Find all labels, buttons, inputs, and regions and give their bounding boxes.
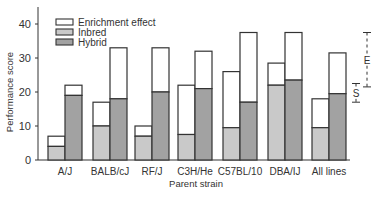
hybrid-segment — [152, 92, 169, 160]
x-category-label: BALB/cJ — [91, 166, 129, 177]
x-category-label: RF/J — [141, 166, 162, 177]
enrichment-segment — [285, 33, 302, 81]
y-axis-title: Performance score — [4, 52, 15, 132]
inbred-segment — [223, 128, 240, 160]
x-category-label: DBA/IJ — [269, 166, 300, 177]
enrichment-segment — [152, 48, 169, 92]
legend-swatch — [56, 29, 73, 35]
bar-group-dba-ij — [268, 33, 302, 161]
enrichment-segment — [65, 85, 82, 95]
enrichment-segment — [312, 99, 329, 128]
hybrid-segment — [65, 95, 82, 160]
enrichment-segment — [268, 63, 285, 85]
enrichment-segment — [178, 85, 195, 134]
bar-group-rf-j — [135, 48, 169, 160]
inbred-segment — [178, 135, 195, 161]
inbred-segment — [268, 85, 285, 160]
legend-swatch — [56, 19, 73, 25]
inbred-segment — [135, 136, 152, 160]
legend: Enrichment effectInbredHybrid — [56, 17, 156, 48]
enrichment-segment — [110, 48, 127, 99]
hybrid-segment — [240, 102, 257, 160]
bar-chart: 010203040 A/JBALB/cJRF/JC3H/HeC57BL/10DB… — [0, 0, 387, 197]
hybrid-segment — [285, 80, 302, 160]
y-tick-label: 40 — [19, 18, 31, 30]
inbred-segment — [93, 126, 110, 160]
x-axis-title: Parent strain — [169, 178, 223, 189]
bar-group-balb-cj — [93, 48, 127, 160]
x-category-label: C3H/He — [177, 166, 213, 177]
enrichment-segment — [329, 53, 346, 94]
bar-group-all-lines — [312, 53, 346, 160]
error-bars: ES — [352, 33, 371, 103]
error-bar-label: E — [364, 55, 371, 66]
enrichment-segment — [48, 136, 65, 146]
inbred-segment — [312, 128, 329, 160]
error-bar-e: E — [363, 33, 371, 87]
x-category-label: All lines — [312, 166, 346, 177]
hybrid-segment — [329, 94, 346, 160]
enrichment-segment — [223, 72, 240, 128]
enrichment-segment — [135, 126, 152, 136]
y-tick-label: 0 — [25, 154, 31, 166]
hybrid-segment — [195, 89, 212, 160]
legend-label: Hybrid — [78, 37, 107, 48]
bar-group-c57bl-10 — [223, 33, 257, 161]
legend-swatch — [56, 39, 73, 45]
inbred-segment — [48, 146, 65, 160]
bars — [48, 33, 346, 161]
bar-group-c3h-he — [178, 51, 212, 160]
enrichment-segment — [240, 33, 257, 103]
enrichment-segment — [93, 102, 110, 126]
x-category-label: C57BL/10 — [218, 166, 263, 177]
y-tick-label: 10 — [19, 120, 31, 132]
x-axis-labels: A/JBALB/cJRF/JC3H/HeC57BL/10DBA/IJAll li… — [58, 166, 346, 177]
hybrid-segment — [110, 99, 127, 160]
x-category-label: A/J — [58, 166, 72, 177]
enrichment-segment — [195, 51, 212, 88]
error-bar-s: S — [352, 84, 360, 103]
bar-group-a-j — [48, 85, 82, 160]
y-tick-label: 30 — [19, 52, 31, 64]
error-bar-label: S — [353, 88, 360, 99]
y-tick-label: 20 — [19, 86, 31, 98]
